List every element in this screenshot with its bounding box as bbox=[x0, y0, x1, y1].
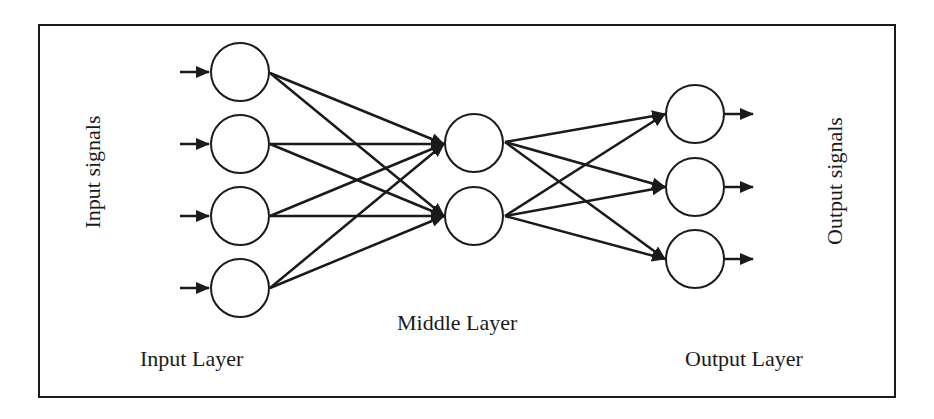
input-layer-label: Input Layer bbox=[140, 346, 243, 372]
output-signal-arrows bbox=[725, 114, 753, 259]
input-node-4 bbox=[211, 259, 269, 317]
middle-node-2 bbox=[445, 187, 503, 245]
input-node-1 bbox=[211, 43, 269, 101]
input-layer-nodes bbox=[211, 43, 269, 317]
output-layer-label: Output Layer bbox=[685, 346, 803, 372]
input-signal-arrows bbox=[180, 72, 209, 288]
output-node-1 bbox=[666, 85, 724, 143]
output-node-2 bbox=[666, 158, 724, 216]
output-signals-label: Output signals bbox=[822, 111, 848, 251]
middle-node-1 bbox=[445, 114, 503, 172]
output-node-3 bbox=[666, 230, 724, 288]
input-to-middle-connections bbox=[270, 73, 444, 288]
input-node-3 bbox=[211, 187, 269, 245]
middle-layer-label: Middle Layer bbox=[397, 310, 517, 336]
input-node-2 bbox=[211, 115, 269, 173]
input-signals-label: Input signals bbox=[80, 107, 106, 237]
output-layer-nodes bbox=[666, 85, 724, 288]
middle-layer-nodes bbox=[445, 114, 503, 245]
middle-to-output-connections bbox=[505, 114, 665, 259]
